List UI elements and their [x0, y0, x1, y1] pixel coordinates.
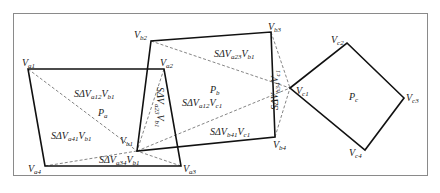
vertex-label-vc3: Vc3	[406, 92, 419, 105]
vertex-label-vb1: Vb1	[120, 135, 133, 148]
vertex-label-vc1: Vc1	[296, 85, 309, 98]
area-label-b34-c1-vertical: SΔVb34Vc1	[269, 70, 282, 110]
vertex-label-va1: Va1	[22, 57, 35, 70]
polygon-diagram: Va1 Va2 Va3 Va4 Vb1 Vb2 Vb3 Vb4 Vc1 Vc2 …	[0, 0, 440, 193]
area-label-a23-b1: SΔVa23Vb1	[214, 48, 255, 61]
area-label-a12-c1: SΔVa12Vc1	[182, 97, 222, 110]
vertex-label-va2: Va2	[160, 57, 174, 70]
area-label-a23-b1-vertical: SΔVa23Vb1	[153, 87, 166, 128]
area-label-b41-c1: SΔVb41Vc1	[210, 126, 250, 139]
vertex-label-va4: Va4	[28, 163, 42, 176]
polygon-label-pa: Pa	[97, 107, 108, 120]
area-label-a41-b1: SΔVa41Vb1	[51, 130, 92, 143]
area-label-a12-b1: SΔVa12Vb1	[74, 88, 115, 101]
vertex-label-va3: Va3	[183, 163, 197, 176]
polygon-label-pc: Pc	[348, 91, 359, 104]
vertex-label-vb2: Vb2	[134, 29, 148, 42]
vertex-label-vb4: Vb4	[273, 139, 287, 152]
vertex-label-vc4: Vc4	[349, 147, 362, 160]
polygon-label-pb: Pb	[209, 84, 220, 97]
area-label-a34-b1: SΔVa34Vb1	[99, 154, 140, 167]
vertex-label-vc2: Vc2	[331, 34, 344, 47]
polygon-labels: Pa Pb Pc	[97, 84, 359, 120]
